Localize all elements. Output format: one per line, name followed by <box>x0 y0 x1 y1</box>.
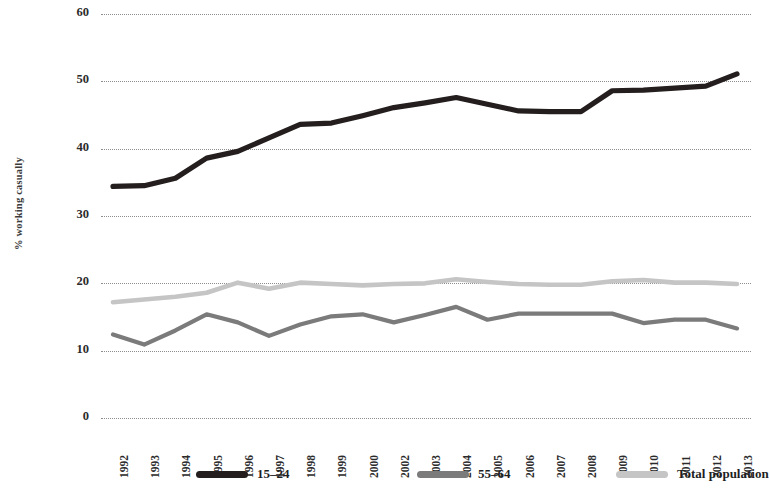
chart-legend: 15–2455–64Total population <box>0 462 767 491</box>
series-line-55-64 <box>113 307 737 345</box>
plot-area: 6050403020100 <box>101 14 751 418</box>
line-swatch-icon <box>196 471 248 478</box>
legend-item-total-population[interactable]: Total population <box>616 462 769 486</box>
y-axis-tick-label: 50 <box>43 72 89 87</box>
legend-label: 55–64 <box>478 466 511 482</box>
y-axis-tick-label: 40 <box>43 140 89 155</box>
series-line-15-24 <box>113 74 737 186</box>
y-axis-tick-label: 10 <box>43 342 89 357</box>
line-swatch-icon <box>616 471 668 478</box>
line-swatch-icon <box>417 471 469 478</box>
y-axis-tick-label: 20 <box>43 274 89 289</box>
y-axis-tick-label: 60 <box>43 5 89 20</box>
legend-label: Total population <box>677 466 769 482</box>
legend-item-15-24[interactable]: 15–24 <box>196 462 290 486</box>
series-line-total-population <box>113 279 737 302</box>
y-axis-title: % working casually <box>13 124 24 284</box>
y-axis-tick-label: 30 <box>43 207 89 222</box>
y-axis-tick-label: 0 <box>43 409 89 424</box>
gridline <box>101 418 751 419</box>
series-lines-group <box>101 14 751 418</box>
legend-label: 15–24 <box>257 466 290 482</box>
legend-item-55-64[interactable]: 55–64 <box>417 462 511 486</box>
